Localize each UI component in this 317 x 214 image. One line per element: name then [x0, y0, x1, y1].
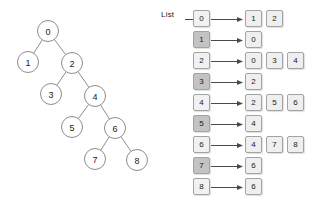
list-cell[interactable]: 3 [266, 52, 283, 69]
tree-node-circle-4 [85, 86, 106, 107]
tree-node-circle-6 [105, 118, 126, 139]
list-cell[interactable]: 2 [245, 94, 262, 111]
tree-edge-6-8 [121, 137, 131, 152]
list-cell[interactable]: 6 [287, 94, 304, 111]
tree-edge-4-6 [101, 105, 110, 119]
adjacency-row: 54 [160, 115, 317, 134]
figure-canvas: 012345678 List 0121020343242565464787686 [0, 0, 317, 214]
adjacency-row: 32 [160, 73, 317, 92]
list-cell[interactable]: 4 [245, 115, 262, 132]
tree-svg: 012345678 [0, 0, 160, 214]
adjacency-row: 012 [160, 10, 317, 29]
tree-node-circle-3 [41, 84, 62, 105]
tree-node-circle-7 [85, 149, 106, 170]
list-cell[interactable]: 7 [266, 136, 283, 153]
list-head-box-8[interactable]: 8 [193, 178, 210, 195]
tree-edge-4-5 [78, 104, 88, 118]
tree-node-4[interactable]: 4 [85, 86, 106, 107]
row-arrow-icon [211, 185, 243, 190]
list-cell[interactable]: 4 [287, 52, 304, 69]
adjacency-row: 76 [160, 157, 317, 176]
list-head-box-4[interactable]: 4 [193, 94, 210, 111]
tree-node-circle-0 [38, 21, 59, 42]
row-arrow-icon [211, 17, 243, 22]
tree-node-8[interactable]: 8 [127, 150, 148, 171]
tree-node-6[interactable]: 6 [105, 118, 126, 139]
list-head-box-5[interactable]: 5 [193, 115, 210, 132]
list-cell[interactable]: 4 [245, 136, 262, 153]
adjacency-row: 6478 [160, 136, 317, 155]
row-arrow-icon [211, 38, 243, 43]
tree-edge-2-4 [78, 72, 89, 88]
adjacency-row: 10 [160, 31, 317, 50]
row-arrow-icon [211, 59, 243, 64]
list-cell[interactable]: 6 [245, 157, 262, 174]
tree-panel: 012345678 [0, 0, 160, 214]
list-head-box-0[interactable]: 0 [193, 10, 210, 27]
tree-node-group: 012345678 [18, 21, 148, 171]
list-cell[interactable]: 1 [245, 10, 262, 27]
tree-edge-6-7 [101, 137, 110, 150]
row-arrow-icon [211, 101, 243, 106]
row-arrow-icon [211, 122, 243, 127]
row-arrow-icon [211, 143, 243, 148]
tree-edge-0-1 [34, 40, 43, 53]
tree-node-circle-2 [62, 53, 83, 74]
list-head-box-1[interactable]: 1 [193, 31, 210, 48]
row-arrow-icon [211, 80, 243, 85]
tree-node-circle-1 [18, 52, 39, 73]
tree-node-1[interactable]: 1 [18, 52, 39, 73]
adjacency-row: 4256 [160, 94, 317, 113]
tree-node-0[interactable]: 0 [38, 21, 59, 42]
tree-node-3[interactable]: 3 [41, 84, 62, 105]
tree-node-circle-5 [62, 117, 83, 138]
adjacency-row: 86 [160, 178, 317, 197]
tree-node-5[interactable]: 5 [62, 117, 83, 138]
list-cell[interactable]: 2 [245, 73, 262, 90]
adjacency-row: 2034 [160, 52, 317, 71]
list-head-box-3[interactable]: 3 [193, 73, 210, 90]
list-cell[interactable]: 5 [266, 94, 283, 111]
list-cell[interactable]: 0 [245, 31, 262, 48]
list-cell[interactable]: 0 [245, 52, 262, 69]
tree-node-7[interactable]: 7 [85, 149, 106, 170]
list-cell[interactable]: 6 [245, 178, 262, 195]
row-arrow-icon [211, 164, 243, 169]
list-head-box-2[interactable]: 2 [193, 52, 210, 69]
list-cell[interactable]: 2 [266, 10, 283, 27]
list-cell[interactable]: 8 [287, 136, 304, 153]
tree-node-2[interactable]: 2 [62, 53, 83, 74]
tree-edge-0-2 [54, 39, 65, 54]
tree-node-circle-8 [127, 150, 148, 171]
tree-edge-2-3 [57, 72, 66, 86]
adjacency-list-panel: List 0121020343242565464787686 [160, 0, 317, 214]
list-head-box-7[interactable]: 7 [193, 157, 210, 174]
list-head-box-6[interactable]: 6 [193, 136, 210, 153]
